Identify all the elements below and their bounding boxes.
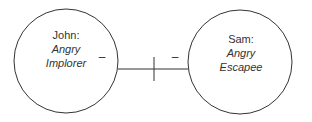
node-sam-label: Sam: Angry Escapee [191, 32, 291, 74]
node-sam-role-2: Escapee [191, 60, 291, 74]
node-john-name: John: [16, 28, 116, 42]
node-sam-role-1: Angry [191, 46, 291, 60]
edge-left-sign: – [82, 50, 122, 64]
edge-right-sign: – [155, 50, 195, 64]
node-sam-name: Sam: [191, 32, 291, 46]
